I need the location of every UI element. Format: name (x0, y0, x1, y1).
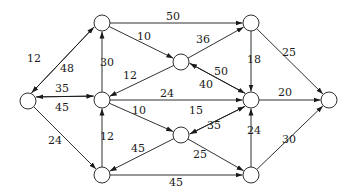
edge-E-A (36, 96, 94, 97)
edge-weight-label: 15 (189, 104, 203, 117)
edge-weight-label: 25 (282, 46, 296, 59)
node-H (173, 127, 189, 143)
nodes-layer (20, 15, 337, 183)
edge-weight-label: 18 (247, 53, 261, 66)
edge-weight-label: 35 (207, 119, 221, 132)
edge-weight-label: 36 (196, 33, 210, 46)
node-B (94, 15, 110, 31)
node-J (243, 167, 259, 183)
graph-svg: 1248354524501030123650402410124525351518… (0, 0, 354, 196)
edge-weight-label: 45 (131, 142, 145, 155)
edges-layer (31, 23, 323, 175)
node-F (243, 92, 259, 108)
edge-weight-label: 24 (48, 134, 62, 147)
edge-weight-label: 24 (247, 124, 261, 137)
edge-weight-label: 50 (214, 65, 228, 78)
edge-weight-label: 48 (60, 62, 74, 75)
edge-weight-label: 20 (278, 86, 292, 99)
edge-weight-label: 30 (100, 56, 114, 69)
node-G (321, 92, 337, 108)
node-C (173, 54, 189, 70)
edge-D-G (257, 29, 323, 94)
node-I (94, 167, 110, 183)
edge-weight-label: 10 (137, 30, 151, 43)
node-D (243, 15, 259, 31)
edge-weight-label: 25 (193, 148, 207, 161)
node-A (20, 93, 36, 109)
edge-weight-label: 12 (100, 130, 114, 143)
edge-weight-label: 45 (55, 101, 69, 114)
edge-weight-label: 45 (169, 176, 183, 189)
edge-weight-label: 40 (199, 78, 213, 91)
edge-weight-label: 35 (55, 82, 69, 95)
edge-A-I (34, 107, 96, 169)
edge-weight-label: 12 (123, 69, 137, 82)
graph-diagram: 1248354524501030123650402410124525351518… (0, 0, 354, 196)
edge-weight-label: 10 (132, 104, 146, 117)
edge-weight-label: 50 (166, 10, 180, 23)
edge-weight-label: 24 (160, 87, 174, 100)
node-E (94, 92, 110, 108)
edge-weight-label: 12 (27, 52, 41, 65)
edge-weight-label: 30 (282, 133, 296, 146)
